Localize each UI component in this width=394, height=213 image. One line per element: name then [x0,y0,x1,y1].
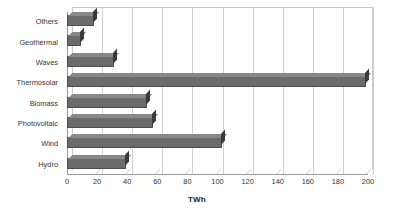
gridline [373,7,374,175]
bar-top-face [68,53,119,57]
x-axis-tick-labels: 020406080100120140160180200 [67,178,377,190]
x-axis-tick-label: 40 [123,178,131,185]
y-axis-tick-label: Waves [36,59,58,66]
bar-top-face [68,94,152,98]
bar-row [67,155,368,175]
y-axis-tick-label: Hydro [38,161,58,168]
bar [67,15,94,26]
bar [67,97,147,108]
y-axis-tick-label: Thermosolar [17,80,58,87]
bar [67,35,81,46]
x-axis-tick-label: 160 [302,178,314,185]
bar-top-face [68,155,131,159]
y-axis-tick-label: Photovoltaic [18,120,58,127]
bars-layer [67,12,368,175]
bar-end-cap [80,28,84,43]
bar-row [67,32,368,52]
y-axis-tick-label: Wind [41,141,58,148]
x-axis-tick-label: 120 [241,178,253,185]
bar [67,117,153,128]
x-axis-tick-label: 180 [332,178,344,185]
x-axis-tick-label: 200 [362,178,374,185]
x-axis-tick-label: 60 [153,178,161,185]
x-axis-tick-label: 80 [183,178,191,185]
bar-top-face [68,73,372,77]
x-axis-tick-label: 20 [93,178,101,185]
bar-top-face [68,134,227,138]
bar-row [67,53,368,73]
bar-chart: OthersGeothermalWavesThermosolarBiomassP… [0,0,394,213]
bar-row [67,114,368,134]
y-axis-tick-label: Others [36,18,58,25]
x-axis-tick-label: 100 [211,178,223,185]
bar-end-cap [152,109,156,124]
bar-row [67,73,368,93]
bar [67,158,126,169]
y-axis-tick-label: Geothermal [19,39,58,46]
bar [67,137,222,148]
bar-end-cap [221,130,225,145]
y-axis-category-labels: OthersGeothermalWavesThermosolarBiomassP… [0,12,62,175]
bar [67,76,366,87]
x-axis-tick-label: 140 [272,178,284,185]
plot-area [67,12,368,175]
bar-row [67,94,368,114]
bar-row [67,12,368,32]
bar-top-face [68,114,158,118]
bar [67,56,114,67]
bar-end-cap [93,8,97,23]
x-axis-title: TWh [0,195,394,204]
x-axis-tick-label: 0 [65,178,69,185]
y-axis-tick-label: Biomass [30,100,58,107]
bar-row [67,134,368,154]
